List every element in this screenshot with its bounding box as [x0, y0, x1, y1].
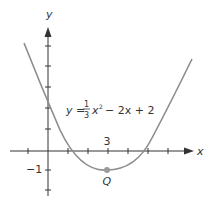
- graph-canvas: y x 3 −1 Q y = 1 3 x 2 − 2x + 2: [0, 0, 213, 204]
- equation-x2: x: [91, 104, 99, 117]
- equation-label: y = 1 3 x 2 − 2x + 2: [65, 100, 154, 120]
- equation-rest: − 2x + 2: [105, 104, 154, 117]
- tick-label-neg1: −1: [26, 163, 42, 176]
- point-label-q: Q: [103, 175, 112, 188]
- equation-lhs: y =: [65, 104, 85, 117]
- equation-exponent: 2: [99, 103, 103, 110]
- y-axis: [45, 27, 52, 196]
- y-axis-label: y: [45, 8, 53, 21]
- x-axis-arrow-icon: [184, 148, 194, 155]
- x-axis-label: x: [196, 145, 204, 158]
- tick-label-3: 3: [104, 135, 111, 148]
- y-axis-arrow-icon: [45, 27, 52, 37]
- x-axis: [10, 148, 194, 155]
- vertex-point-q: [104, 167, 110, 173]
- equation-frac-num: 1: [84, 100, 89, 109]
- equation-frac-den: 3: [84, 111, 89, 120]
